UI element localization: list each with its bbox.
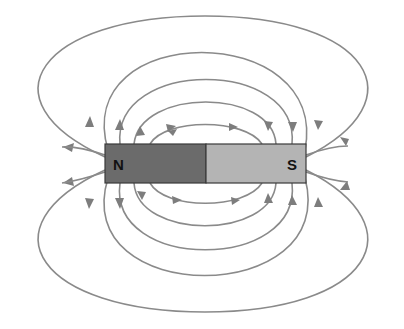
arrow-icon <box>314 120 323 130</box>
field-lines-top <box>38 16 367 157</box>
arrow-icon <box>85 198 94 209</box>
south-pole-label: S <box>287 156 297 173</box>
arrow-icon <box>340 137 349 146</box>
bar-magnet: N S <box>105 144 306 183</box>
north-pole-label: N <box>113 156 124 173</box>
field-lines-bottom <box>38 170 367 312</box>
field-line-right-short-top <box>306 146 348 155</box>
arrow-icon <box>288 195 297 205</box>
field-line-bottom-1 <box>150 183 262 203</box>
field-line-right-short-bottom <box>306 172 348 182</box>
arrow-icon <box>288 122 297 132</box>
bar-magnet-field-diagram: N S <box>0 0 404 329</box>
arrow-icon <box>314 197 323 207</box>
arrow-icon <box>85 116 94 127</box>
field-line-bottom-5 <box>38 170 367 312</box>
arrow-icon <box>172 196 182 204</box>
arrow-icon <box>229 123 238 131</box>
field-line-top-5 <box>38 16 367 157</box>
field-line-top-3 <box>120 80 292 145</box>
field-line-top-1 <box>150 125 262 145</box>
